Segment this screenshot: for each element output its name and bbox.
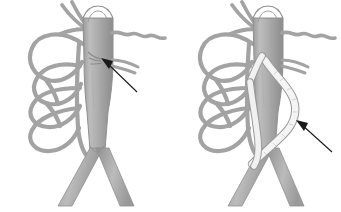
trunk-arch-top — [253, 6, 283, 18]
trunk-arch-top — [83, 6, 113, 18]
bifurcation-leg-right — [96, 148, 134, 206]
serpentine-branch-vessel — [112, 32, 165, 38]
annotation-arrow-right — [296, 120, 332, 152]
panel-left — [0, 0, 171, 212]
panel-right — [170, 0, 341, 212]
bifurcation — [58, 146, 134, 206]
bifurcation-leg-right — [266, 148, 304, 206]
bifurcation-leg-left — [228, 148, 273, 206]
lateral-branch-vessels — [282, 60, 308, 73]
figure-root — [0, 0, 341, 212]
collateral-vessel-arcade — [30, 34, 89, 158]
serpentine-branch-vessel — [282, 32, 335, 38]
bifurcation-leg-left — [58, 148, 103, 206]
main-trunk-vessel — [83, 6, 113, 150]
